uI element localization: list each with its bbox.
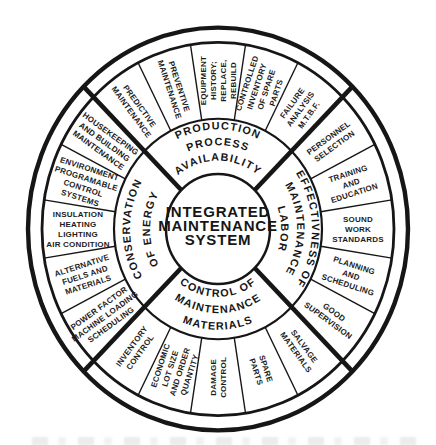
segment-damage-control: DAMAGECONTROL	[209, 357, 228, 398]
segment-label-line: HISTORY;	[209, 61, 218, 100]
segment-label-line: HEATING	[60, 220, 97, 229]
hub-title-line-3: SYSTEM	[185, 231, 251, 248]
quadrant-label-line-control-of-maintenance-materials: CONTROL OF	[178, 275, 258, 299]
segment-label-line: EQUIPMENT	[199, 56, 208, 105]
quadrant-label-line-effectivness-of-maintenance-labor: LABOR	[276, 204, 291, 253]
segment-training-and-education: TRAININGANDEDUCATION	[324, 162, 379, 205]
quadrant-label-line-control-of-maintenance-materials: MATERIALS	[182, 313, 255, 332]
segment-divider-line	[321, 246, 392, 258]
segment-insulation-heating-lighting-air-condition: INSULATIONHEATINGLIGHTINGAIR CONDITION	[46, 210, 110, 250]
segment-label-line: DAMAGE	[209, 359, 218, 396]
segment-label-line: CONTROL	[219, 357, 228, 398]
segment-label-line: REPLACE,	[219, 60, 228, 102]
segment-alternative-fuels-and-materials: ALTERNATIVEFUELS ANDMATERIALS	[53, 252, 117, 298]
cropped-caption-remnant	[32, 437, 422, 445]
segment-spare-parts: SPAREPARTS	[247, 354, 274, 387]
segment-label-line: INSULATION	[53, 210, 103, 219]
segment-predictive-maintenance: PREDICTIVEMAINTENANCE	[110, 79, 162, 140]
segment-divider-line	[234, 338, 245, 413]
segment-label-line: LIGHTING	[58, 230, 98, 239]
segment-label-line: WORK	[345, 225, 371, 234]
segment-label-line: SOUND	[343, 215, 373, 224]
scanned-figure-page: PREDICTIVEMAINTENANCEPREVENTIVEMAINTENAN…	[0, 0, 436, 445]
segment-label-line: STANDARDS	[332, 235, 384, 244]
maintenance-wheel-diagram: PREDICTIVEMAINTENANCEPREVENTIVEMAINTENAN…	[0, 0, 436, 445]
segment-label-line: AIR CONDITION	[46, 240, 110, 249]
segment-sound-work-standards: SOUNDWORKSTANDARDS	[332, 215, 384, 244]
hub-title: INTEGRATED MAINTENANCE SYSTEM	[158, 203, 278, 248]
segment-equipment-history-replace-rebuild: EQUIPMENTHISTORY;REPLACE,REBUILD	[199, 56, 239, 105]
segment-label-line: REBUILD	[229, 62, 238, 99]
segment-good-supervision: GOODSUPERVISION	[302, 292, 359, 341]
segment-planning-and-scheduling: PLANNINGANDSCHEDULING	[320, 253, 381, 298]
